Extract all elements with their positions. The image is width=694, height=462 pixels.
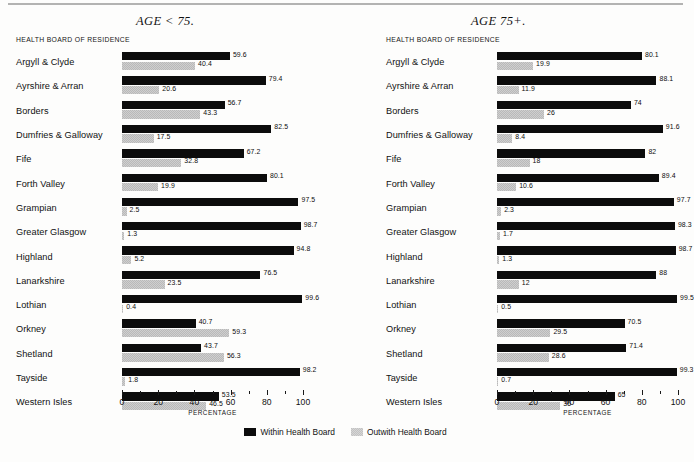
bar-outwith — [122, 329, 229, 337]
x-axis: PERCENTAGE 020406080100 — [497, 390, 678, 424]
bar-value-outwith: 17.5 — [157, 133, 171, 140]
category-label: Lothian — [16, 300, 47, 310]
category-label: Argyll & Clyde — [386, 57, 444, 67]
category-label: Borders — [386, 106, 419, 116]
bar-value-within: 99.5 — [680, 294, 694, 301]
bar-outwith — [122, 207, 127, 215]
category-label: Dumfries & Galloway — [16, 130, 103, 140]
bar-within — [122, 222, 301, 230]
row-bars: 80.119.9 — [122, 172, 303, 196]
chart-row: Lanarkshire8812 — [345, 269, 691, 293]
x-tick-label: 20 — [153, 397, 163, 407]
row-bars: 99.30.7 — [497, 366, 678, 390]
bar-value-within: 40.7 — [199, 318, 213, 325]
bar-value-outwith: 12 — [522, 279, 530, 286]
bar-value-outwith: 8.4 — [515, 133, 525, 140]
chart-row: Borders56.743.3 — [0, 99, 346, 123]
chart-row: Argyll & Clyde80.119.9 — [345, 50, 691, 74]
legend-label-within: Within Health Board — [260, 427, 334, 437]
row-bars: 89.410.6 — [497, 172, 678, 196]
category-label: Ayrshire & Arran — [16, 81, 84, 91]
chart-row: Greater Glasgow98.71.3 — [0, 220, 346, 244]
bar-value-outwith: 28.6 — [552, 352, 566, 359]
bar-value-outwith: 1.8 — [128, 376, 138, 383]
bar-value-within: 82 — [648, 148, 656, 155]
bar-value-within: 88 — [659, 269, 667, 276]
chart-row: Orkney70.529.5 — [345, 317, 691, 341]
bar-value-outwith: 20.6 — [162, 85, 176, 92]
row-bars: 79.420.6 — [122, 74, 303, 98]
x-tick-major — [497, 390, 498, 395]
row-bars: 98.71.3 — [497, 244, 678, 268]
row-bars: 82.517.5 — [122, 123, 303, 147]
bar-outwith — [122, 62, 195, 70]
chart-row: Fife8218 — [345, 147, 691, 171]
row-bars: 76.523.5 — [122, 269, 303, 293]
bar-value-within: 59.6 — [233, 51, 247, 58]
bar-within — [122, 319, 196, 327]
bar-value-outwith: 5.2 — [134, 255, 144, 262]
bar-outwith — [122, 86, 159, 94]
bar-value-outwith: 43.3 — [203, 109, 217, 116]
x-tick-label: 0 — [120, 397, 125, 407]
chart-row: Forth Valley89.410.6 — [345, 172, 691, 196]
y-axis-title: HEALTH BOARD OF RESIDENCE — [16, 36, 130, 43]
x-tick-minor — [624, 391, 625, 394]
x-tick-label: 60 — [601, 397, 611, 407]
x-tick-major — [158, 390, 159, 395]
x-tick-minor — [213, 391, 214, 394]
bar-within — [122, 101, 225, 109]
row-bars: 70.529.5 — [497, 317, 678, 341]
row-bars: 67.232.8 — [122, 147, 303, 171]
category-label: Grampian — [386, 203, 427, 213]
bar-within — [122, 246, 294, 254]
bar-outwith — [497, 377, 498, 385]
bar-value-within: 98.2 — [303, 366, 317, 373]
bar-outwith — [122, 183, 158, 191]
bar-within — [122, 125, 271, 133]
bar-value-outwith: 2.5 — [130, 206, 140, 213]
legend-label-outwith: Outwith Health Board — [367, 427, 447, 437]
bar-outwith — [497, 280, 519, 288]
bar-within — [122, 271, 260, 279]
bar-value-outwith: 11.9 — [522, 85, 535, 92]
category-label: Highland — [16, 252, 53, 262]
chart-row: Argyll & Clyde59.640.4 — [0, 50, 346, 74]
bar-within — [497, 246, 676, 254]
chart-row: Forth Valley80.119.9 — [0, 172, 346, 196]
panel-title: AGE 75+. — [471, 14, 526, 29]
bar-outwith — [122, 280, 165, 288]
chart-row: Ayrshire & Arran88.111.9 — [345, 74, 691, 98]
bar-value-outwith: 32.8 — [184, 157, 198, 164]
bar-value-within: 80.1 — [270, 172, 284, 179]
x-axis: PERCENTAGE 020406080100 — [122, 390, 303, 424]
x-tick-minor — [176, 391, 177, 394]
x-tick-major — [642, 390, 643, 395]
row-bars: 43.756.3 — [122, 342, 303, 366]
category-label: Argyll & Clyde — [16, 57, 74, 67]
x-tick-minor — [285, 391, 286, 394]
bar-within — [497, 271, 656, 279]
bar-value-within: 70.5 — [628, 318, 642, 325]
x-tick-label: 20 — [528, 397, 538, 407]
row-bars: 71.428.6 — [497, 342, 678, 366]
bar-outwith — [497, 256, 499, 264]
category-label: Greater Glasgow — [16, 227, 86, 237]
bar-value-outwith: 18 — [533, 157, 541, 164]
bar-value-within: 98.3 — [678, 221, 692, 228]
chart-row: Dumfries & Galloway82.517.5 — [0, 123, 346, 147]
x-tick-minor — [551, 391, 552, 394]
bar-outwith — [122, 232, 124, 240]
plot-area: Argyll & Clyde59.640.4Ayrshire & Arran79… — [0, 50, 346, 390]
bar-value-within: 91.6 — [666, 123, 680, 130]
chart-row: Orkney40.759.3 — [0, 317, 346, 341]
bar-within — [122, 52, 230, 60]
bar-within — [122, 149, 244, 157]
category-label: Western Isles — [16, 397, 72, 407]
bar-value-within: 79.4 — [269, 75, 283, 82]
bar-value-within: 97.7 — [677, 196, 691, 203]
category-label: Fife — [16, 154, 32, 164]
chart-row: Fife67.232.8 — [0, 147, 346, 171]
x-tick-label: 80 — [637, 397, 647, 407]
x-tick-major — [267, 390, 268, 395]
